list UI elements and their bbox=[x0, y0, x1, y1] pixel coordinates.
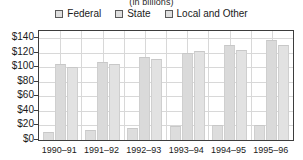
y-axis-tick-label: $80 bbox=[17, 76, 34, 86]
legend-label: State bbox=[127, 9, 150, 19]
x-axis-tick-label: 1991–92 bbox=[80, 145, 122, 155]
bar bbox=[194, 51, 205, 140]
legend-item-local-and-other: Local and Other bbox=[165, 9, 248, 19]
bar bbox=[170, 126, 181, 140]
legend-swatch-icon bbox=[115, 10, 123, 18]
bar bbox=[278, 45, 289, 140]
bar bbox=[85, 130, 96, 140]
x-axis-tick-label: 1993–94 bbox=[165, 145, 207, 155]
y-axis-tick-label: $100 bbox=[12, 61, 34, 71]
legend-label: Local and Other bbox=[177, 9, 248, 19]
x-axis-tick-label: 1994–95 bbox=[207, 145, 249, 155]
y-axis-tick-label: $0 bbox=[23, 134, 34, 144]
legend-item-state: State bbox=[115, 9, 150, 19]
y-axis-tick-label: $120 bbox=[12, 47, 34, 57]
bar bbox=[182, 53, 193, 140]
bar bbox=[236, 50, 247, 140]
bar bbox=[151, 59, 162, 140]
bar bbox=[67, 67, 78, 140]
plot-inner bbox=[39, 31, 293, 140]
gridline-vertical bbox=[81, 31, 82, 140]
x-axis: 1990–911991–921992–931993–941994–951995–… bbox=[38, 145, 294, 157]
y-axis-tick-label: $20 bbox=[17, 119, 34, 129]
legend-item-federal: Federal bbox=[55, 9, 101, 19]
y-axis-tick-label: $60 bbox=[17, 90, 34, 100]
bar-chart-figure: (in billions) Federal State Local and Ot… bbox=[0, 0, 303, 160]
legend-label: Federal bbox=[67, 9, 101, 19]
chart-title: (in billions) bbox=[0, 0, 303, 7]
gridline-vertical bbox=[208, 31, 209, 140]
bar bbox=[224, 45, 235, 140]
y-axis: $0$20$40$60$80$100$120$140 bbox=[0, 30, 34, 141]
x-axis-tick-label: 1995–96 bbox=[250, 145, 292, 155]
bar bbox=[254, 125, 265, 140]
legend-swatch-icon bbox=[55, 10, 63, 18]
bar bbox=[127, 128, 138, 140]
bar bbox=[266, 40, 277, 140]
bar bbox=[97, 62, 108, 140]
x-axis-tick-label: 1990–91 bbox=[38, 145, 80, 155]
y-axis-tick-label: $140 bbox=[12, 32, 34, 42]
gridline-vertical bbox=[166, 31, 167, 140]
chart-legend: Federal State Local and Other bbox=[0, 9, 303, 19]
x-axis-tick-label: 1992–93 bbox=[123, 145, 165, 155]
gridline-vertical bbox=[251, 31, 252, 140]
y-axis-tick-label: $40 bbox=[17, 105, 34, 115]
gridline-vertical bbox=[124, 31, 125, 140]
bar bbox=[212, 125, 223, 140]
bar bbox=[109, 64, 120, 140]
bar bbox=[43, 132, 54, 140]
legend-swatch-icon bbox=[165, 10, 173, 18]
bar bbox=[55, 64, 66, 140]
bar bbox=[139, 57, 150, 140]
plot-area bbox=[38, 30, 294, 141]
